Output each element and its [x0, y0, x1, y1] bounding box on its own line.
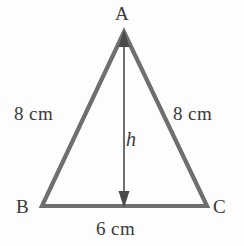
base-length-label: 6 cm — [96, 219, 135, 238]
height-label: h — [126, 129, 136, 149]
side-length-label-left: 8 cm — [14, 104, 53, 123]
vertex-label-b: B — [16, 197, 29, 216]
vertex-label-c: C — [213, 197, 226, 216]
side-length-label-right: 8 cm — [173, 104, 212, 123]
vertex-label-a: A — [115, 4, 129, 23]
